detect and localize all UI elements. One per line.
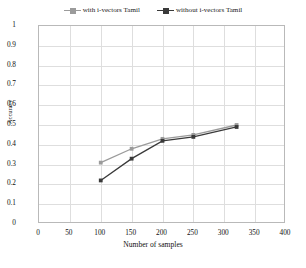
y-axis-title: Accuracy	[6, 100, 13, 124]
y-axis-tick-label: 0.9	[0, 41, 16, 48]
x-axis-tick-label: 150	[116, 229, 146, 236]
data-point-marker	[161, 139, 165, 143]
series-1	[99, 123, 239, 164]
x-axis-tick-label: 0	[23, 229, 53, 236]
data-point-marker	[99, 161, 103, 165]
y-axis-tick-label: 0.8	[0, 61, 16, 68]
y-axis-tick-label: 0	[0, 219, 16, 226]
legend-label-without-ivectors: without i-vectors Tamil	[176, 7, 242, 14]
data-point-marker	[235, 125, 239, 129]
legend-swatch-without-ivectors	[157, 7, 174, 14]
x-axis-tick-label: 400	[270, 229, 300, 236]
data-point-marker	[130, 157, 134, 161]
legend-label-with-ivectors: with i-vectors Tamil	[83, 7, 140, 14]
data-point-marker	[191, 135, 195, 139]
series-line	[101, 125, 237, 163]
data-series-layer	[39, 26, 286, 224]
legend-item-without-ivectors: without i-vectors Tamil	[157, 7, 242, 14]
x-axis-title: Number of samples	[0, 240, 306, 249]
y-axis-tick-label: 0.7	[0, 81, 16, 88]
y-axis-tick-label: 0.3	[0, 160, 16, 167]
x-axis-tick-label: 50	[54, 229, 84, 236]
x-axis-tick-label: 200	[147, 229, 177, 236]
x-axis-tick-label: 100	[85, 229, 115, 236]
y-axis-tick-label: 0.2	[0, 180, 16, 187]
chart-legend: with i-vectors Tamil without i-vectors T…	[0, 7, 306, 14]
y-axis-tick-label: 1	[0, 21, 16, 28]
y-axis-tick-label: 0.4	[0, 140, 16, 147]
legend-swatch-with-ivectors	[64, 7, 81, 14]
x-axis-tick-label: 300	[208, 229, 238, 236]
plot-area	[38, 25, 285, 223]
data-point-marker	[130, 147, 134, 151]
legend-item-with-ivectors: with i-vectors Tamil	[64, 7, 140, 14]
line-chart: with i-vectors Tamil without i-vectors T…	[0, 0, 306, 268]
data-point-marker	[99, 179, 103, 183]
x-axis-tick-label: 350	[239, 229, 269, 236]
x-axis-tick-label: 250	[177, 229, 207, 236]
y-axis-tick-label: 0.1	[0, 200, 16, 207]
